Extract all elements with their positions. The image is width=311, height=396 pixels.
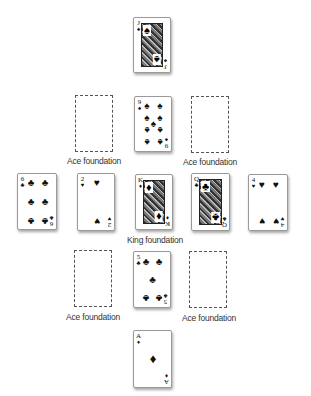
club-icon: ♣ — [26, 216, 36, 226]
ace-foundation-label: Ace foundation — [183, 157, 237, 167]
ace-foundation-label: Ace foundation — [67, 156, 121, 166]
spade-icon: ♠ — [142, 101, 152, 111]
spade-icon: ♠ — [155, 101, 165, 111]
club-icon: ♣ — [141, 293, 151, 303]
card-jack-spades[interactable]: J♠ ♠ ♠ J♠ — [133, 17, 171, 73]
card-6-clubs[interactable]: 6♣ ♣ ♣ ♣ ♣ ♣ ♣ 6♣ — [17, 173, 57, 230]
club-icon: ♣ — [141, 257, 151, 267]
diamond-icon: ♦ — [155, 211, 163, 222]
card-corner: 6♣ — [19, 176, 26, 188]
club-icon: ♣ — [40, 197, 50, 207]
face-card-art: ♣ ♣ — [199, 179, 222, 225]
spade-icon: ♠ — [142, 125, 152, 135]
face-card-art: ♠ ♠ — [141, 23, 163, 67]
card-corner: 9♠ — [163, 137, 170, 149]
spade-icon: ♠ — [153, 54, 161, 65]
heart-icon: ♥ — [257, 180, 267, 190]
card-corner: A♦ — [135, 333, 142, 345]
club-icon: ♣ — [154, 257, 164, 267]
card-corner: J♠ — [162, 58, 169, 70]
card-corner: 4♥ — [250, 177, 257, 189]
card-corner: 2♥ — [106, 216, 113, 228]
club-icon: ♣ — [201, 181, 210, 192]
ace-foundation-bottom-right[interactable] — [189, 251, 227, 308]
club-icon: ♣ — [40, 178, 50, 188]
heart-icon: ♥ — [271, 180, 281, 190]
club-icon: ♣ — [26, 197, 36, 207]
card-corner: A♦ — [163, 373, 170, 385]
heart-icon: ♥ — [257, 216, 267, 226]
ace-foundation-top-left[interactable] — [75, 95, 113, 152]
card-corner: K♦ — [164, 215, 171, 227]
card-9-spades[interactable]: 9♠ ♠ ♠ ♠ ♠ ♠ ♠ ♠ ♠ ♠ 9♠ — [134, 96, 172, 152]
card-queen-clubs[interactable]: Q♣ ♣ ♣ Q♣ — [191, 173, 230, 231]
card-corner: 5♣ — [162, 293, 169, 305]
club-icon: ♣ — [26, 178, 36, 188]
ace-foundation-top-right[interactable] — [191, 96, 229, 153]
card-corner: 4♥ — [279, 216, 286, 228]
king-foundation-card-king-diamonds[interactable]: K♦ ♦ ♦ K♦ — [135, 174, 173, 230]
ace-foundation-bottom-left[interactable] — [74, 250, 112, 307]
spade-icon: ♠ — [142, 137, 152, 147]
card-corner: 2♥ — [79, 176, 86, 188]
card-2-hearts[interactable]: 2♥ ♥ ♥ 2♥ — [77, 173, 115, 231]
card-corner: 6♣ — [48, 215, 55, 227]
heart-icon: ♥ — [92, 216, 102, 226]
card-corner: Q♣ — [221, 216, 228, 228]
king-foundation-label: King foundation — [127, 235, 183, 245]
club-icon: ♣ — [211, 212, 220, 223]
spade-icon: ♠ — [155, 125, 165, 135]
club-icon: ♣ — [148, 275, 158, 285]
card-ace-diamonds[interactable]: A♦ ♦ A♦ — [133, 330, 172, 388]
card-5-clubs[interactable]: 5♣ ♣ ♣ ♣ ♣ ♣ 5♣ — [133, 251, 171, 308]
heart-icon: ♥ — [92, 178, 102, 188]
ace-foundation-label: Ace foundation — [66, 312, 120, 322]
spade-icon: ♠ — [143, 25, 151, 36]
diamond-icon: ♦ — [148, 354, 158, 364]
diamond-icon: ♦ — [145, 182, 153, 193]
face-card-art: ♦ ♦ — [143, 180, 165, 224]
card-4-hearts[interactable]: 4♥ ♥ ♥ ♥ ♥ 4♥ — [248, 174, 288, 231]
ace-foundation-label: Ace foundation — [182, 313, 236, 323]
